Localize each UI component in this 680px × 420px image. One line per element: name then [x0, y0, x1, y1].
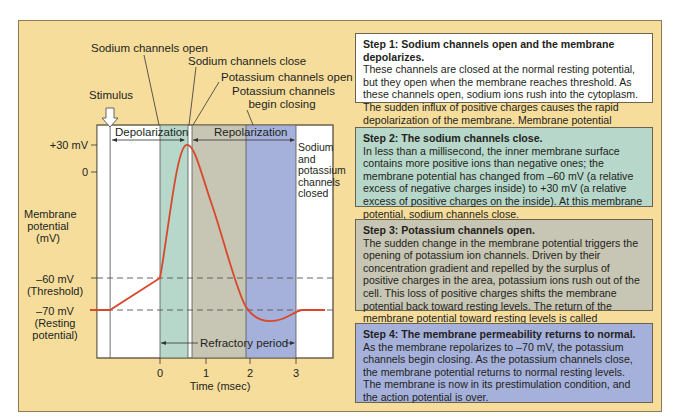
note-line: closed	[298, 188, 346, 200]
y-axis-title-line2: potential	[24, 220, 72, 232]
y-tick-zero: 0	[30, 166, 88, 178]
y-tick-resting-label2: potential)	[22, 329, 88, 341]
x-tick-2: 2	[244, 367, 256, 379]
step-1-box: Step 1: Sodium channels open and the mem…	[355, 33, 653, 103]
y-tick-minus60: –60 mV (Threshold)	[22, 273, 88, 297]
note-line: Sodium	[298, 142, 346, 154]
step-2-box: Step 2: The sodium channels close. In le…	[355, 127, 653, 207]
annotation-potassium-closing: Potassium channels begin closing	[232, 85, 332, 111]
y-tick-minus70: –70 mV (Resting potential)	[22, 305, 88, 341]
annotation-potassium-closing-line1: Potassium channels	[232, 85, 335, 97]
y-tick-resting-label1: (Resting	[22, 317, 88, 329]
note-line: potassium	[298, 165, 346, 177]
y-tick-plus30: +30 mV	[30, 139, 88, 151]
step-3-box: Step 3: Potassium channels open. The sud…	[355, 219, 653, 311]
step-4-body: As the membrane repolarizes to –70 mV, t…	[363, 341, 633, 403]
step-3-title: Step 3: Potassium channels open.	[363, 224, 645, 237]
y-tick-minus70-value: –70 mV	[22, 305, 88, 317]
sodium-open-band	[160, 125, 188, 358]
refractory-period-label: Refractory period	[200, 337, 288, 349]
annotation-stimulus: Stimulus	[89, 89, 133, 102]
y-tick-threshold-label: (Threshold)	[22, 285, 88, 297]
annotation-sodium-open: Sodium channels open	[91, 42, 208, 55]
repolarization-label: Repolarization	[214, 126, 288, 138]
y-axis-title-line3: (mV)	[24, 232, 72, 244]
step-2-body: In less than a millisecond, the inner me…	[363, 145, 642, 220]
stimulus-arrow-icon	[102, 108, 118, 127]
y-axis-title: Membrane potential (mV)	[24, 208, 72, 244]
potassium-open-band	[192, 125, 246, 358]
step-1-title: Step 1: Sodium channels open and the mem…	[363, 38, 645, 63]
x-axis-title: Time (msec)	[180, 380, 260, 392]
annotation-potassium-open: Potassium channels open	[221, 71, 353, 84]
channels-closed-note: Sodium and potassium channels closed	[298, 142, 346, 200]
x-tick-3: 3	[290, 367, 302, 379]
x-tick-1: 1	[200, 367, 212, 379]
annotation-potassium-closing-line2: begin closing	[248, 98, 315, 110]
potassium-closing-band	[246, 125, 296, 358]
y-axis-title-line1: Membrane	[24, 208, 72, 220]
step-2-title: Step 2: The sodium channels close.	[363, 132, 645, 145]
step-4-box: Step 4: The membrane permeability return…	[355, 323, 653, 403]
x-tick-0: 0	[154, 367, 166, 379]
annotation-sodium-close: Sodium channels close	[188, 55, 306, 68]
depolarization-label: Depolarization	[115, 126, 189, 138]
step-3-body: The sudden change in the membrane potent…	[363, 237, 640, 337]
step-4-title: Step 4: The membrane permeability return…	[363, 328, 645, 341]
y-tick-minus60-value: –60 mV	[22, 273, 88, 285]
